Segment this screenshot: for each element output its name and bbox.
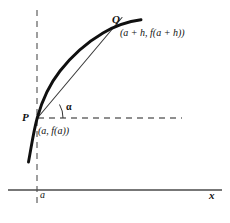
point-marker-p	[36, 117, 38, 119]
figure-canvas	[0, 0, 230, 223]
point-label-p: P	[22, 112, 29, 123]
angle-arc-alpha	[60, 105, 64, 119]
point-coordinate-label-q: (a + h, f(a + h))	[120, 28, 185, 38]
function-curve	[29, 20, 142, 162]
secant-line-figure: Q (a + h, f(a + h)) P (a, f(a)) α a x	[0, 0, 230, 223]
point-coordinate-label-p: (a, f(a))	[38, 126, 69, 136]
secant-line-pq	[37, 18, 122, 119]
point-marker-q	[112, 27, 114, 29]
angle-label-alpha: α	[66, 102, 72, 112]
x-axis-tick-label-a: a	[40, 190, 45, 200]
x-axis-label: x	[209, 190, 215, 201]
point-label-q: Q	[112, 14, 120, 25]
